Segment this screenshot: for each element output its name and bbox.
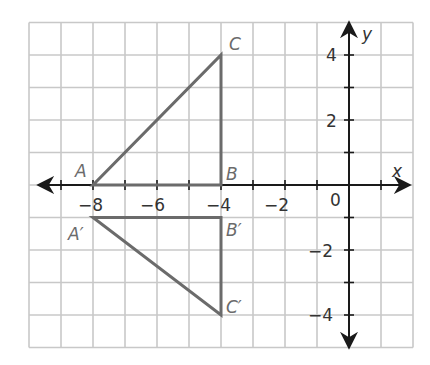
y-tick-label: −2 xyxy=(308,241,333,261)
coordinate-plane: x y 0 −8 −6 −4 −2 4 2 −2 −4 A B C A′ B′ … xyxy=(0,0,430,365)
y-tick-label: 2 xyxy=(326,111,337,131)
vertex-label-a-prime: A′ xyxy=(67,224,84,244)
y-axis-label: y xyxy=(361,24,373,44)
vertex-label-b-prime: B′ xyxy=(226,220,242,240)
vertex-label-c-prime: C′ xyxy=(226,297,242,317)
origin-label: 0 xyxy=(330,190,341,210)
x-tick-label: −4 xyxy=(206,195,231,215)
vertex-label-b: B xyxy=(226,164,238,184)
vertex-label-a: A xyxy=(74,161,87,181)
x-tick-label: −6 xyxy=(140,195,165,215)
y-tick-label: −4 xyxy=(308,305,333,325)
vertex-label-c: C xyxy=(229,34,241,54)
x-axis-label: x xyxy=(391,161,403,181)
x-tick-label: −8 xyxy=(78,195,103,215)
y-tick-label: 4 xyxy=(326,45,337,65)
x-tick-label: −2 xyxy=(264,195,289,215)
